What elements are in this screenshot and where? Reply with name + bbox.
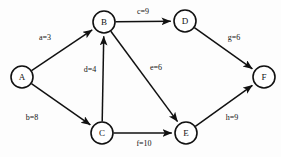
graph-edge-d-f (194, 28, 252, 69)
edge-label-a: a=3 (39, 33, 51, 42)
graph-edge-b-e (111, 31, 178, 121)
graph-edge-b-d (115, 21, 170, 22)
graph-edge-a-c (31, 84, 90, 125)
graph-node-e: E (175, 122, 197, 144)
node-label-b: B (101, 17, 107, 27)
graph-canvas: ABCDEF a=3b=8c=9d=4e=6f=10g=6h=9 (0, 0, 281, 157)
node-label-a: A (19, 72, 26, 82)
edge-label-h: h=9 (226, 113, 239, 122)
graph-edge-c-b (102, 36, 104, 121)
edge-label-e: e=6 (150, 63, 162, 72)
graph-node-a: A (11, 66, 33, 88)
graph-node-f: F (253, 66, 275, 88)
edge-label-d: d=4 (84, 65, 97, 74)
node-label-e: E (183, 128, 189, 138)
node-label-f: F (261, 72, 266, 82)
graph-diagram: ABCDEF a=3b=8c=9d=4e=6f=10g=6h=9 (0, 0, 281, 157)
edge-label-b: b=8 (26, 113, 39, 122)
edge-label-g: g=6 (228, 33, 241, 42)
node-label-d: D (182, 16, 189, 26)
graph-node-c: C (91, 122, 113, 144)
edge-label-f: f=10 (136, 139, 151, 148)
node-label-c: C (99, 128, 105, 138)
edge-label-c: c=9 (137, 7, 149, 16)
graph-node-b: B (93, 11, 115, 33)
graph-edge-e-f (195, 85, 252, 126)
nodes-layer: ABCDEF (11, 10, 275, 144)
edge-labels-layer: a=3b=8c=9d=4e=6f=10g=6h=9 (26, 7, 241, 148)
edges-layer (31, 21, 252, 133)
graph-node-d: D (174, 10, 196, 32)
